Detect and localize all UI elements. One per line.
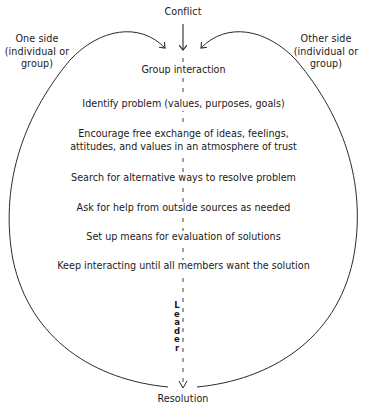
resolution-arrowhead-icon — [179, 381, 187, 388]
step-keep-interacting: Keep interacting until all members want … — [0, 260, 367, 273]
step-encourage-exchange: Encourage free exchange of ideas, feelin… — [0, 128, 367, 153]
leader-vertical-label: L e a d e r — [172, 301, 182, 353]
step-search-alternatives: Search for alternative ways to resolve p… — [0, 172, 367, 185]
step-identify-problem: Identify problem (values, purposes, goal… — [0, 98, 367, 111]
leader-letter: r — [172, 344, 182, 353]
left-party-line-1: One side — [2, 33, 72, 46]
step-evaluation-means: Set up means for evaluation of solutions — [0, 231, 367, 244]
conflict-label: Conflict — [158, 6, 208, 19]
resolution-label: Resolution — [143, 393, 223, 406]
step-ask-for-help: Ask for help from outside sources as nee… — [0, 202, 367, 215]
group-interaction-title: Group interaction — [0, 64, 367, 77]
right-party-line-2: (individual or — [286, 46, 366, 59]
conflict-resolution-diagram: Conflict One side (individual or group) … — [0, 0, 367, 406]
left-party-line-2: (individual or — [2, 46, 72, 59]
right-party-line-1: Other side — [286, 33, 366, 46]
